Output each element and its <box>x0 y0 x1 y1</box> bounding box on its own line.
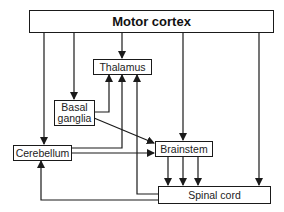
node-spinal-cord: Spinal cord <box>158 186 271 204</box>
node-basal-ganglia-label: Basal ganglia <box>58 102 92 124</box>
arrow-spinal-cord-to-thalamus <box>137 75 158 194</box>
node-spinal-cord-label: Spinal cord <box>188 190 241 201</box>
arrow-basal-ganglia-to-thalamus <box>94 75 109 112</box>
node-basal-ganglia: Basal ganglia <box>54 100 95 126</box>
node-cerebellum: Cerebellum <box>13 145 72 161</box>
arrow-basal-ganglia-to-brainstem <box>94 118 154 143</box>
node-thalamus: Thalamus <box>93 59 152 75</box>
node-thalamus-label: Thalamus <box>99 62 145 73</box>
node-motor-cortex: Motor cortex <box>29 10 274 33</box>
node-brainstem-label: Brainstem <box>160 144 207 155</box>
node-brainstem: Brainstem <box>155 141 213 157</box>
node-motor-cortex-label: Motor cortex <box>112 16 191 27</box>
node-cerebellum-label: Cerebellum <box>16 148 70 159</box>
